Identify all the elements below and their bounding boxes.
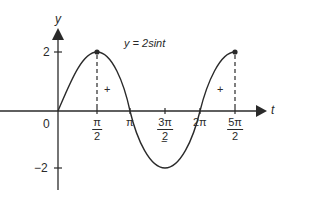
- y-axis-arrow-icon: [52, 28, 64, 40]
- y-tick-label-neg2: −2: [34, 162, 48, 174]
- x-tick-label-2pi: 2π: [193, 117, 207, 128]
- x-tick-label-pi-half-num: π: [92, 117, 102, 130]
- plus-sign-annotation-2: +: [217, 84, 223, 95]
- y-tick-label-2: 2: [43, 46, 50, 58]
- x-axis-label: t: [271, 104, 274, 116]
- plus-sign-annotation-1: +: [104, 84, 110, 95]
- x-tick-label-pi: π: [126, 117, 134, 128]
- x-tick-label-5pi-half-den: 2: [232, 130, 238, 142]
- y-axis-label: y: [55, 13, 61, 25]
- x-tick-label-pi-half: π 2: [92, 117, 102, 142]
- sine-curve: [58, 52, 235, 168]
- x-axis-arrow-icon: [256, 105, 267, 117]
- x-tick-label-5pi-half-num: 5π: [227, 117, 243, 130]
- equation-label: y = 2sint: [124, 38, 165, 49]
- minus-sign-annotation: −: [161, 136, 167, 147]
- peak-point-pi-half: [94, 49, 99, 54]
- x-tick-label-pi-half-den: 2: [94, 130, 100, 142]
- origin-label: 0: [43, 118, 50, 130]
- x-tick-label-3pi-half-num: 3π: [157, 117, 173, 130]
- x-tick-label-5pi-half: 5π 2: [227, 117, 243, 142]
- peak-point-5pi-half: [232, 49, 237, 54]
